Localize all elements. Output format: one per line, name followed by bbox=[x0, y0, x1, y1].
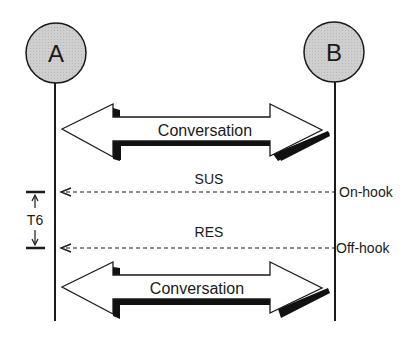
conversation-arrow-1: Conversation bbox=[62, 104, 330, 161]
node-a: A bbox=[26, 23, 86, 83]
on-hook-label: On-hook bbox=[339, 184, 394, 200]
off-hook-label: Off-hook bbox=[336, 240, 390, 256]
node-b-label: B bbox=[326, 39, 342, 66]
sequence-diagram: A B Conversation SUS On-hook RES Off-hoo… bbox=[0, 0, 417, 341]
res-label: RES bbox=[195, 224, 224, 240]
node-a-label: A bbox=[48, 40, 64, 67]
message-sus: SUS On-hook bbox=[61, 171, 394, 200]
sus-label: SUS bbox=[195, 171, 224, 187]
timer-t6: T6 bbox=[26, 192, 45, 248]
node-b: B bbox=[304, 22, 364, 82]
conversation-label-2: Conversation bbox=[150, 280, 244, 297]
t6-label: T6 bbox=[27, 212, 44, 228]
conversation-arrow-2: Conversation bbox=[62, 262, 330, 319]
conversation-label-1: Conversation bbox=[158, 122, 252, 139]
message-res: RES Off-hook bbox=[61, 224, 390, 256]
